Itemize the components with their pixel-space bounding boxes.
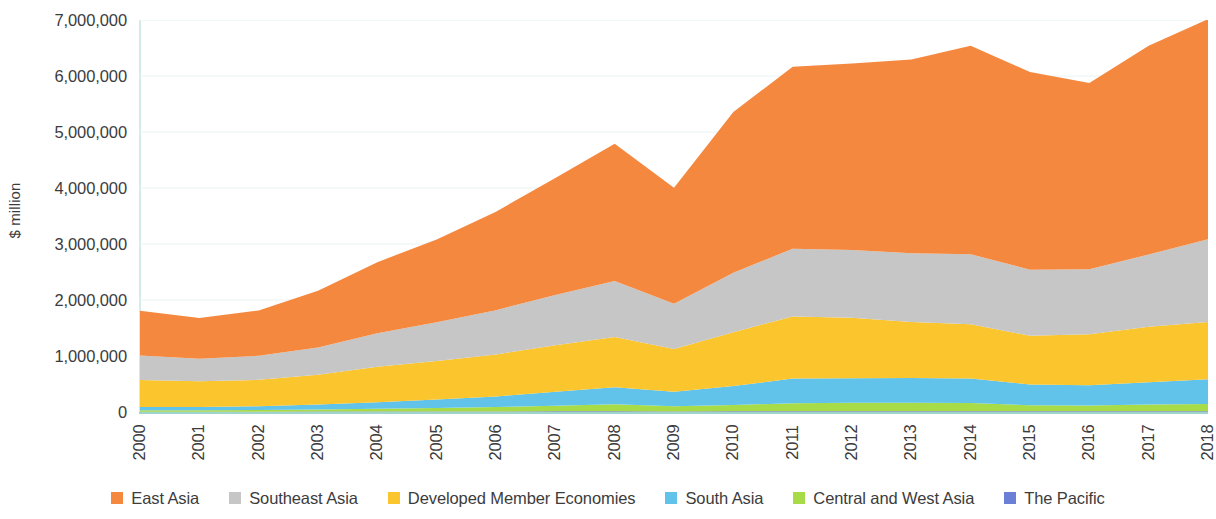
x-axis-tick-label: 2016 (1080, 425, 1099, 461)
x-axis-tick: 2011 (762, 414, 824, 476)
x-axis-tick-label: 2007 (546, 425, 565, 461)
legend-item[interactable]: Central and West Asia (793, 489, 974, 508)
legend-label: East Asia (131, 489, 199, 508)
x-axis-tick: 2012 (821, 414, 883, 476)
x-axis-tick: 2009 (643, 414, 705, 476)
x-axis-tick-label: 2004 (368, 425, 387, 461)
legend-item[interactable]: East Asia (111, 489, 199, 508)
x-axis-tick: 2017 (1118, 414, 1180, 476)
legend-label: Southeast Asia (249, 489, 358, 508)
x-axis-tick-label: 2010 (724, 425, 743, 461)
x-axis-tick-label: 2000 (131, 425, 150, 461)
y-axis-tick: 4,000,000 (26, 179, 134, 198)
x-axis-tick: 2016 (1058, 414, 1120, 476)
x-axis-tick: 2008 (584, 414, 646, 476)
y-axis-tick-labels: 01,000,0002,000,0003,000,0004,000,0005,0… (26, 0, 134, 420)
legend-item[interactable]: Developed Member Economies (388, 489, 636, 508)
legend-item[interactable]: Southeast Asia (229, 489, 358, 508)
x-axis-tick-label: 2008 (605, 425, 624, 461)
x-axis-tick-label: 2002 (249, 425, 268, 461)
y-axis-tick: 3,000,000 (26, 235, 134, 254)
legend-label: Central and West Asia (813, 489, 974, 508)
stacked-area-chart: $ million 01,000,0002,000,0003,000,0004,… (0, 0, 1216, 519)
legend-swatch-icon (1004, 492, 1016, 504)
legend-swatch-icon (793, 492, 805, 504)
x-axis-tick: 2004 (346, 414, 408, 476)
y-axis-tick: 5,000,000 (26, 123, 134, 142)
x-axis-tick-label: 2014 (961, 425, 980, 461)
y-axis-tick: 1,000,000 (26, 347, 134, 366)
x-axis-tick: 2006 (465, 414, 527, 476)
x-axis-tick-label: 2015 (1021, 425, 1040, 461)
x-axis-tick: 2002 (228, 414, 290, 476)
legend-item[interactable]: South Asia (665, 489, 763, 508)
x-axis-tick-label: 2005 (427, 425, 446, 461)
plot-area (140, 20, 1208, 412)
y-axis-tick: 6,000,000 (26, 67, 134, 86)
x-axis-tick: 2018 (1177, 414, 1216, 476)
x-axis-tick: 2010 (702, 414, 764, 476)
legend-label: South Asia (685, 489, 763, 508)
x-axis-tick-label: 2001 (190, 425, 209, 461)
x-axis-tick-label: 2013 (902, 425, 921, 461)
legend-swatch-icon (665, 492, 677, 504)
x-axis-tick-label: 2009 (665, 425, 684, 461)
x-axis-tick: 2014 (940, 414, 1002, 476)
y-axis-tick: 7,000,000 (26, 11, 134, 30)
y-axis-tick: 2,000,000 (26, 291, 134, 310)
x-axis-tick: 2013 (880, 414, 942, 476)
chart-legend: East AsiaSoutheast AsiaDeveloped Member … (0, 483, 1216, 513)
legend-item[interactable]: The Pacific (1004, 489, 1105, 508)
x-axis-tick: 2007 (524, 414, 586, 476)
x-axis-tick: 2015 (999, 414, 1061, 476)
x-axis-tick: 2003 (287, 414, 349, 476)
legend-swatch-icon (388, 492, 400, 504)
area-series-svg (140, 20, 1208, 412)
legend-swatch-icon (229, 492, 241, 504)
y-axis-title-label: $ million (7, 182, 24, 238)
x-axis-tick-label: 2003 (309, 425, 328, 461)
x-axis-tick-label: 2018 (1199, 425, 1216, 461)
x-axis-tick-label: 2017 (1139, 425, 1158, 461)
legend-swatch-icon (111, 492, 123, 504)
x-axis-tick-label: 2011 (783, 425, 802, 460)
x-axis-tick-label: 2006 (487, 425, 506, 461)
x-axis-tick: 2005 (406, 414, 468, 476)
x-axis-tick-labels: 2000200120022003200420052006200720082009… (140, 414, 1208, 476)
x-axis-tick: 2001 (168, 414, 230, 476)
legend-label: The Pacific (1024, 489, 1105, 508)
legend-label: Developed Member Economies (408, 489, 636, 508)
x-axis-tick: 2000 (109, 414, 171, 476)
x-axis-tick-label: 2012 (843, 425, 862, 461)
